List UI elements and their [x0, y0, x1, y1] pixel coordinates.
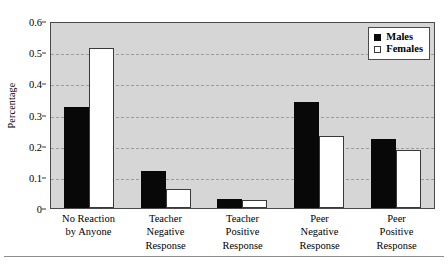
- y-axis-tick-mark: [42, 22, 46, 23]
- y-axis-tick-mark: [42, 209, 46, 210]
- bar-males: [294, 102, 319, 208]
- plot-area: Males Females: [50, 22, 435, 209]
- y-axis-tick-mark: [42, 146, 46, 147]
- y-axis-tick-label: 0.5: [29, 48, 42, 59]
- bar-females: [89, 48, 114, 209]
- bar-chart-figure: Percentage 0.60.50.40.30.20.10 Males Fem…: [0, 0, 448, 266]
- bar-males: [64, 107, 89, 208]
- bar-group: [204, 23, 281, 208]
- chart-legend: Males Females: [368, 27, 430, 60]
- x-axis-category-labels: No Reactionby AnyoneTeacherNegativeRespo…: [50, 212, 435, 252]
- y-axis-tick-label: 0.4: [29, 79, 42, 90]
- y-axis-tick-label: 0.2: [29, 141, 42, 152]
- x-axis-category-label: TeacherNegativeResponse: [127, 212, 204, 252]
- legend-item-males: Males: [374, 31, 423, 43]
- y-axis-tick-mark: [42, 53, 46, 54]
- y-axis-tick-label: 0.1: [29, 172, 42, 183]
- legend-label-males: Males: [386, 31, 413, 43]
- y-axis-ticks: 0.60.50.40.30.20.10: [16, 0, 46, 230]
- y-axis-tick-mark: [42, 115, 46, 116]
- legend-label-females: Females: [386, 43, 423, 55]
- bar-females: [242, 200, 267, 208]
- bar-group: [281, 23, 358, 208]
- legend-swatch-females-icon: [374, 46, 381, 53]
- bar-males: [371, 139, 396, 208]
- y-axis-tick-mark: [42, 84, 46, 85]
- bar-females: [166, 189, 191, 208]
- bar-males: [217, 199, 242, 208]
- x-axis-category-label: PeerPositiveResponse: [358, 212, 435, 252]
- footer-divider: [4, 256, 444, 257]
- legend-item-females: Females: [374, 43, 423, 55]
- bar-females: [396, 150, 421, 208]
- bar-group: [128, 23, 205, 208]
- legend-swatch-males-icon: [374, 34, 381, 41]
- bar-males: [141, 171, 166, 208]
- y-axis-tick-label: 0.6: [29, 17, 42, 28]
- bar-group: [51, 23, 128, 208]
- bar-females: [319, 136, 344, 208]
- x-axis-category-label: TeacherPositiveResponse: [204, 212, 281, 252]
- x-axis-category-label: PeerNegativeResponse: [281, 212, 358, 252]
- y-axis-tick-label: 0.3: [29, 110, 42, 121]
- y-axis-tick-mark: [42, 177, 46, 178]
- x-axis-category-label: No Reactionby Anyone: [50, 212, 127, 252]
